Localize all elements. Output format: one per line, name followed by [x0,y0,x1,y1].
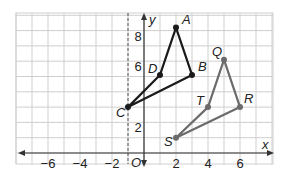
vertex-label-t: T [196,93,205,108]
vertex-point-r [237,104,243,110]
x-axis-left-arrow-icon [18,150,25,156]
x-axis-label: x [261,137,269,152]
y-tick-label: 6 [134,59,141,74]
vertex-point-a [173,25,179,31]
coordinate-plane: x y O −6−4−2246 268 ABCDQRST [0,0,282,180]
x-tick-label: 6 [236,156,243,171]
vertex-label-q: Q [212,44,222,59]
origin-label: O [131,155,141,170]
x-tick-label: −2 [105,156,120,171]
x-tick-label: −6 [41,156,56,171]
vertex-point-t [205,104,211,110]
vertex-label-b: B [198,59,207,74]
vertex-point-c [125,104,131,110]
vertex-point-s [173,135,179,141]
x-tick-label: 4 [204,156,211,171]
y-axis-up-arrow-icon [141,13,147,20]
y-axis-label: y [148,12,157,27]
vertex-point-d [157,72,163,78]
vertex-label-r: R [244,91,253,106]
vertex-point-b [189,72,195,78]
y-tick-label: 8 [134,29,141,44]
vertex-label-a: A [181,12,191,27]
vertex-label-d: D [148,61,157,76]
y-tick-labels: 268 [134,29,141,136]
quadrilateral-abcd: ABCD [116,12,207,121]
vertex-label-c: C [116,105,126,120]
x-tick-label: 2 [172,156,179,171]
x-tick-label: −4 [73,156,88,171]
y-tick-label: 2 [134,120,141,135]
vertex-label-s: S [164,134,173,149]
